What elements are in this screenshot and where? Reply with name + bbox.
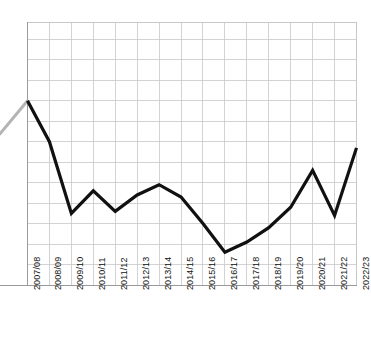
grid-lines	[28, 22, 357, 285]
leading-grey-stub-path	[0, 101, 28, 134]
leading-grey-stub	[0, 101, 28, 134]
data-series	[28, 101, 357, 252]
series-line-1	[28, 101, 357, 252]
